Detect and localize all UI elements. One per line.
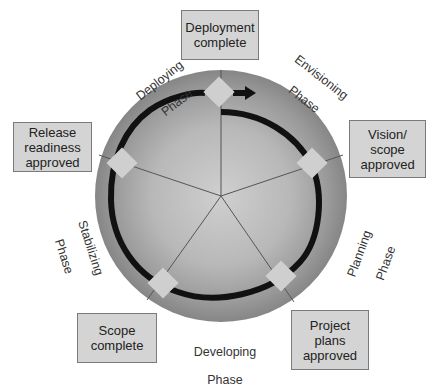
milestone-label: Vision/ scope approved — [361, 127, 415, 172]
milestone-label: Scope complete — [87, 323, 147, 353]
milestone-project-plans-approved: Project plans approved — [291, 310, 369, 370]
milestone-label: Project plans approved — [298, 318, 362, 363]
milestone-deployment-complete: Deployment complete — [181, 10, 259, 60]
milestone-vision-scope-approved: Vision/ scope approved — [349, 120, 426, 178]
milestone-release-readiness-approved: Release readiness approved — [13, 122, 92, 172]
milestone-label: Deployment complete — [182, 20, 258, 50]
milestone-scope-complete: Scope complete — [77, 313, 157, 363]
phase-label-developing: Developing Phase — [185, 331, 265, 387]
milestone-label: Release readiness approved — [19, 125, 87, 170]
